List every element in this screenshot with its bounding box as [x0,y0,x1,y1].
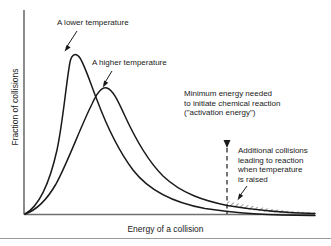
annotation-activation-energy: Minimum energy needed to initiate chemic… [184,89,281,118]
activation-energy-arrowhead [224,140,231,148]
leader-arrowhead-additional-collisions [238,193,244,200]
maxwell-boltzmann-figure: A lower temperature A higher temperature… [0,0,331,246]
y-axis-label: Fraction of collisions [10,47,20,167]
annotation-higher-temperature: A higher temperature [92,58,167,68]
bottom-divider [0,238,331,239]
annotation-lower-temperature: A lower temperature [57,18,129,28]
plot-area [0,0,331,246]
leader-arrowhead-higher-temperature [103,81,109,88]
curve-lower-temperature [25,55,315,216]
leader-arrowhead-lower-temperature [65,45,71,52]
annotation-additional-collisions: Additional collisions leading to reactio… [238,146,308,184]
x-axis-label: Energy of a collision [0,224,331,234]
